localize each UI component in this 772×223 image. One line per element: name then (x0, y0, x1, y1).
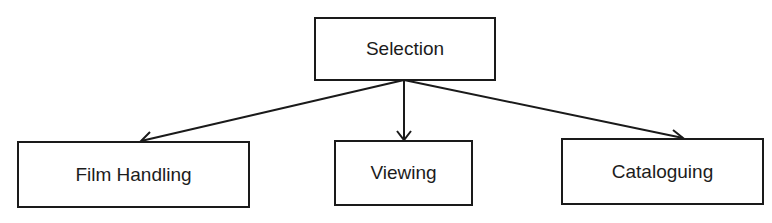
arrow-selection-to-film-handling (141, 80, 404, 141)
node-cataloguing: Cataloguing (561, 138, 764, 205)
node-label: Film Handling (75, 164, 191, 186)
arrow-selection-to-cataloguing (404, 80, 683, 138)
node-label: Selection (366, 38, 444, 60)
node-selection: Selection (314, 17, 496, 81)
node-label: Cataloguing (612, 161, 713, 183)
node-viewing: Viewing (334, 140, 473, 206)
node-film-handling: Film Handling (17, 141, 250, 208)
node-label: Viewing (370, 162, 436, 184)
